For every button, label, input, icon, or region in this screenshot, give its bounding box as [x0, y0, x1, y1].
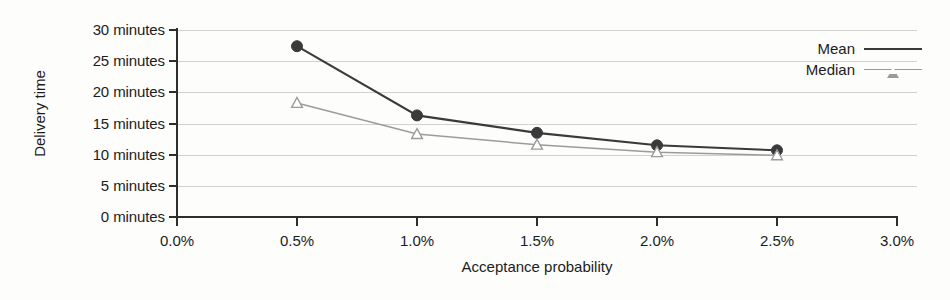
- legend-line: [864, 48, 922, 50]
- data-point: [292, 98, 303, 108]
- legend-marker-fill: [889, 67, 897, 74]
- x-axis-tick-label: 1.0%: [377, 232, 457, 249]
- x-axis-tick-label: 0.5%: [257, 232, 337, 249]
- y-axis-tick-label: 10 minutes: [55, 146, 165, 163]
- y-axis-title: Delivery time: [31, 39, 48, 189]
- legend-key: [864, 42, 922, 56]
- data-point: [412, 110, 423, 121]
- legend-item: Median: [762, 59, 922, 80]
- data-point: [292, 41, 303, 52]
- y-axis-tick-label: 0 minutes: [55, 208, 165, 225]
- x-axis-tick-label: 2.0%: [617, 232, 697, 249]
- y-axis-tick-label: 20 minutes: [55, 83, 165, 100]
- y-axis-tick-labels: 30 minutes25 minutes20 minutes15 minutes…: [55, 0, 165, 300]
- y-axis-tick-label: 25 minutes: [55, 52, 165, 69]
- chart-figure: 30 minutes25 minutes20 minutes15 minutes…: [0, 0, 950, 300]
- y-axis-tick-label: 15 minutes: [55, 115, 165, 132]
- x-axis-tick-label: 2.5%: [737, 232, 817, 249]
- x-axis-tick: [536, 217, 538, 226]
- x-axis-tick-label: 0.0%: [137, 232, 217, 249]
- legend-label: Median: [806, 61, 855, 78]
- x-axis-title: Acceptance probability: [177, 258, 897, 275]
- x-axis-tick: [176, 217, 178, 226]
- y-axis-tick-label: 30 minutes: [55, 21, 165, 38]
- x-axis-tick: [296, 217, 298, 226]
- x-axis-tick: [776, 217, 778, 226]
- x-axis-tick: [896, 217, 898, 226]
- y-axis-tick-label: 5 minutes: [55, 177, 165, 194]
- x-axis-tick-label: 3.0%: [857, 232, 937, 249]
- data-point: [532, 127, 543, 138]
- legend-key: [864, 63, 922, 77]
- legend: MeanMedian: [762, 38, 922, 80]
- triangle-marker-icon: [887, 64, 899, 82]
- legend-label: Mean: [817, 40, 855, 57]
- x-axis-tick-label: 1.5%: [497, 232, 577, 249]
- legend-item: Mean: [762, 38, 922, 59]
- x-axis-tick: [656, 217, 658, 226]
- x-axis-tick: [416, 217, 418, 226]
